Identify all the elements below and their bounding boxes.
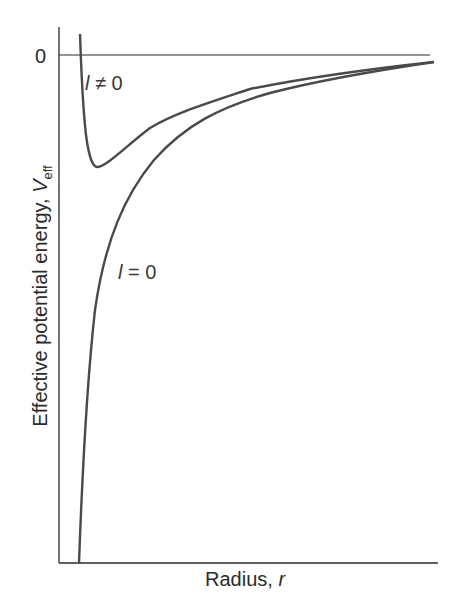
chart-canvas [0,0,454,608]
label-l-nonzero: l ≠ 0 [85,72,123,95]
x-axis-label: Radius, r [205,568,285,591]
y-axis-label-main: Effective potential energy, [29,193,51,427]
curve-l-nonzero [80,34,434,167]
y-tick-zero: 0 [35,45,46,68]
label-l-nonzero-rest: ≠ 0 [89,72,122,94]
x-axis-label-r: r [278,568,285,590]
label-l-zero: l = 0 [118,261,156,284]
y-axis-label: Effective potential energy, Veff [29,165,55,426]
y-axis-label-v: V [29,180,51,193]
curve-l-zero [79,62,434,563]
label-l-zero-rest: = 0 [122,261,156,283]
x-axis-label-main: Radius, [205,568,278,590]
y-axis-label-sub: eff [40,165,55,179]
